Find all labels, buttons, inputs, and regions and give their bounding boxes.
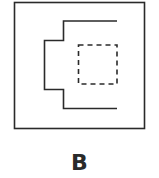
stepped-bracket-path — [45, 21, 118, 109]
figure-label: B — [0, 150, 159, 175]
inner-square — [79, 45, 118, 84]
